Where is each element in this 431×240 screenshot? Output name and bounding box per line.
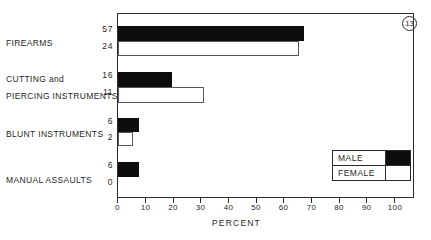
legend-swatch-female [385, 166, 410, 180]
bar-cutting-male [118, 72, 172, 87]
legend: MALE FEMALE [332, 150, 411, 181]
bar-firearms-female [118, 41, 299, 56]
category-label-blunt-line1: BLUNT INSTRUMENTS [6, 129, 103, 139]
x-tick-label-50: 50 [243, 203, 269, 212]
bar-manual-male [118, 162, 139, 177]
x-tick-label-10: 10 [133, 203, 159, 212]
x-tick-label-40: 40 [216, 203, 242, 212]
legend-item-male: MALE [333, 151, 410, 165]
value-label-cutting-female: 11 [95, 87, 113, 97]
x-tick-label-30: 30 [188, 203, 214, 212]
value-label-blunt-female: 2 [95, 132, 113, 142]
legend-label-female: FEMALE [333, 166, 385, 180]
x-axis-title-text: PERCENT [212, 218, 261, 228]
x-tick-label-0: 0 [105, 203, 131, 212]
x-tick-label-20: 20 [160, 203, 186, 212]
x-tick-label-70: 70 [299, 203, 325, 212]
x-tick-label-60: 60 [271, 203, 297, 212]
bar-chart-figure: 13 FIREARMS 57 24 CUTTING and PIERCING I… [0, 0, 431, 240]
category-label-cutting-line1: CUTTING and [6, 74, 64, 84]
x-axis-title: PERCENT [0, 218, 431, 228]
bar-blunt-male [118, 118, 139, 132]
bar-firearms-male [118, 26, 304, 41]
x-tick-label-100: 100 [382, 203, 408, 212]
value-label-firearms-female: 24 [95, 41, 113, 51]
value-label-blunt-male: 6 [95, 116, 113, 126]
value-label-cutting-male: 16 [95, 70, 113, 80]
figure-number-badge: 13 [402, 16, 417, 31]
bar-cutting-female [118, 87, 204, 103]
value-label-manual-male: 6 [95, 160, 113, 170]
bar-blunt-female [118, 132, 133, 146]
legend-label-male: MALE [333, 151, 385, 165]
x-tick-label-90: 90 [354, 203, 380, 212]
legend-swatch-male [385, 151, 410, 165]
value-label-manual-female: 0 [95, 177, 113, 187]
value-label-firearms-male: 57 [95, 24, 113, 34]
legend-item-female: FEMALE [333, 165, 410, 180]
category-label-manual-line1: MANUAL ASSAULTS [6, 175, 92, 185]
x-tick-label-80: 80 [326, 203, 352, 212]
category-label-firearms-line1: FIREARMS [6, 38, 53, 48]
